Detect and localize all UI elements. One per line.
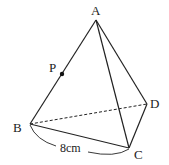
measurement-arc-left	[30, 125, 56, 146]
vertex-label-C: C	[134, 147, 143, 162]
edge-AC	[96, 20, 129, 148]
edge-BD-hidden	[30, 104, 147, 124]
edge-CD	[129, 104, 147, 148]
vertex-label-A: A	[91, 3, 101, 18]
edge-AB	[30, 20, 96, 124]
pyramid-diagram: 8cm A B C D P	[0, 0, 169, 165]
point-label-P: P	[49, 60, 56, 75]
vertex-label-D: D	[150, 96, 159, 111]
point-P-dot	[60, 72, 64, 76]
measurement-label: 8cm	[60, 141, 81, 155]
measurement-arc-right	[88, 149, 129, 154]
vertex-label-B: B	[13, 120, 22, 135]
edge-AD	[96, 20, 147, 104]
